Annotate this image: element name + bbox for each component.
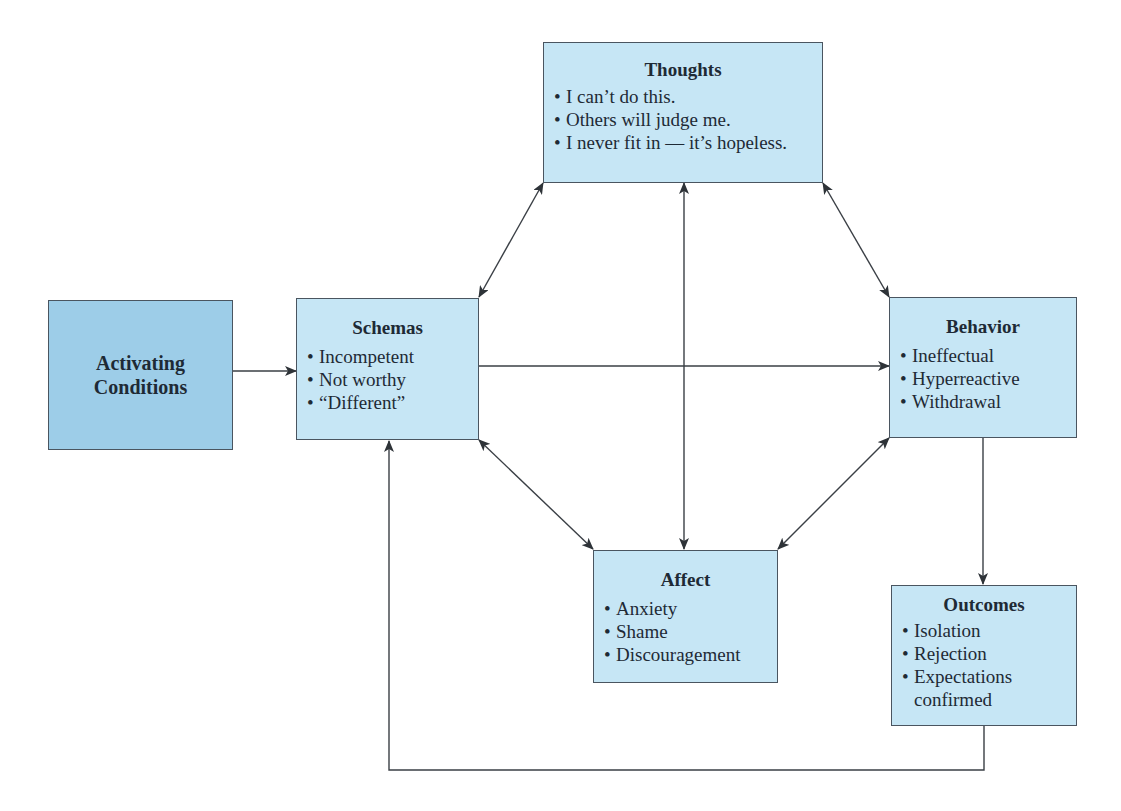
affect-item-text: Anxiety: [616, 598, 677, 619]
affect-list: •Anxiety •Shame •Discouragement: [604, 597, 777, 666]
thoughts-title: Thoughts: [554, 59, 822, 81]
affect-item-text: Shame: [616, 621, 668, 642]
thoughts-item-text: Others will judge me.: [566, 109, 731, 130]
bullet-icon: •: [604, 620, 616, 643]
bullet-icon: •: [307, 391, 319, 414]
outcomes-item: •Isolation: [902, 619, 1076, 642]
bullet-icon: •: [902, 642, 914, 665]
activating-title-line1: Activating: [49, 351, 232, 375]
outcomes-item-text: confirmed: [902, 689, 992, 710]
behavior-item: •Withdrawal: [900, 390, 1076, 413]
schemas-item: •Not worthy: [307, 368, 478, 391]
affect-item: •Anxiety: [604, 597, 777, 620]
bullet-icon: •: [902, 665, 914, 688]
behavior-box: Behavior •Ineffectual •Hyperreactive •Wi…: [889, 297, 1077, 438]
bullet-icon: •: [902, 619, 914, 642]
bullet-icon: •: [307, 345, 319, 368]
outcomes-item: •Rejection: [902, 642, 1076, 665]
thoughts-item-text: I never fit in — it’s hopeless.: [566, 132, 787, 153]
arrow-schemas-thoughts: [479, 183, 543, 297]
bullet-icon: •: [554, 85, 566, 108]
affect-item-text: Discouragement: [616, 644, 741, 665]
activating-conditions-title: Activating Conditions: [49, 351, 232, 399]
schemas-box: Schemas •Incompetent •Not worthy •“Diffe…: [296, 298, 479, 440]
outcomes-list: •Isolation •Rejection •Expectations conf…: [902, 619, 1076, 711]
activating-conditions-box: Activating Conditions: [48, 300, 233, 450]
schemas-item-text: Not worthy: [319, 369, 406, 390]
thoughts-item: •I can’t do this.: [554, 85, 822, 108]
outcomes-title: Outcomes: [902, 594, 1076, 616]
outcomes-box: Outcomes •Isolation •Rejection •Expectat…: [891, 585, 1077, 726]
arrow-schemas-affect: [479, 440, 593, 549]
schemas-list: •Incompetent •Not worthy •“Different”: [307, 345, 478, 414]
outcomes-item: •Expectations: [902, 665, 1076, 688]
affect-title: Affect: [604, 569, 777, 591]
schemas-title: Schemas: [307, 317, 478, 339]
outcomes-item-text: Isolation: [914, 620, 981, 641]
arrow-behavior-affect: [778, 438, 889, 549]
behavior-item: •Hyperreactive: [900, 367, 1076, 390]
behavior-item-text: Hyperreactive: [912, 368, 1020, 389]
behavior-list: •Ineffectual •Hyperreactive •Withdrawal: [900, 344, 1076, 413]
thoughts-box: Thoughts •I can’t do this. •Others will …: [543, 42, 823, 183]
bullet-icon: •: [307, 368, 319, 391]
schemas-item: •Incompetent: [307, 345, 478, 368]
activating-title-line2: Conditions: [49, 375, 232, 399]
behavior-title: Behavior: [900, 316, 1076, 338]
affect-box: Affect •Anxiety •Shame •Discouragement: [593, 550, 778, 683]
behavior-item: •Ineffectual: [900, 344, 1076, 367]
arrow-thoughts-behavior: [823, 183, 889, 297]
behavior-item-text: Withdrawal: [912, 391, 1001, 412]
outcomes-item-continuation: confirmed: [902, 688, 1076, 711]
thoughts-item: •I never fit in — it’s hopeless.: [554, 131, 822, 154]
outcomes-item-text: Expectations: [914, 666, 1012, 687]
schemas-item: •“Different”: [307, 391, 478, 414]
bullet-icon: •: [604, 643, 616, 666]
affect-item: •Shame: [604, 620, 777, 643]
thoughts-list: •I can’t do this. •Others will judge me.…: [554, 85, 822, 154]
affect-item: •Discouragement: [604, 643, 777, 666]
bullet-icon: •: [900, 367, 912, 390]
bullet-icon: •: [554, 131, 566, 154]
thoughts-item: •Others will judge me.: [554, 108, 822, 131]
bullet-icon: •: [604, 597, 616, 620]
outcomes-item-text: Rejection: [914, 643, 987, 664]
bullet-icon: •: [554, 108, 566, 131]
bullet-icon: •: [900, 390, 912, 413]
schemas-item-text: “Different”: [319, 392, 405, 413]
thoughts-item-text: I can’t do this.: [566, 86, 675, 107]
schemas-item-text: Incompetent: [319, 346, 414, 367]
bullet-icon: •: [900, 344, 912, 367]
behavior-item-text: Ineffectual: [912, 345, 994, 366]
